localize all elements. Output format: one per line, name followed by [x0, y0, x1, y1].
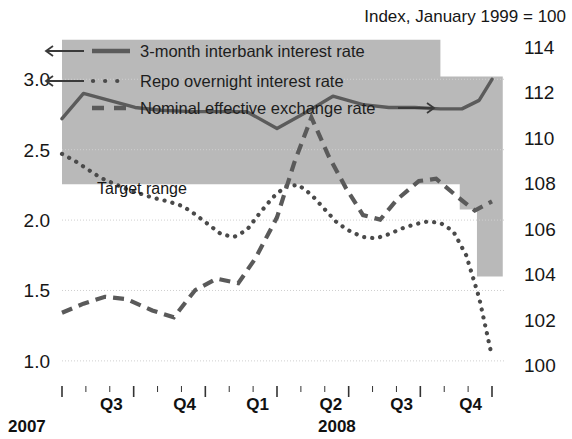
target-range-annotation: Target range — [97, 180, 187, 197]
left-axis-tick-label: 2.5 — [24, 140, 50, 161]
index-note-title: Index, January 1999 = 100 — [364, 7, 566, 26]
left-axis-tick-label: 1.0 — [24, 351, 50, 372]
right-axis-tick-label: 108 — [524, 173, 556, 194]
quarter-label: Q3 — [100, 395, 123, 414]
legend-label: 3-month interbank interest rate — [140, 42, 365, 60]
quarter-label: Q2 — [319, 395, 342, 414]
right-axis-tick-label: 114 — [524, 37, 555, 58]
left-axis-tick-label: 2.0 — [24, 210, 50, 231]
interest-rate-exchange-rate-chart: 3.02.52.01.51.0 114112110108106104102100… — [0, 0, 572, 439]
quarter-label: Q3 — [390, 395, 413, 414]
left-axis-tick-label: 1.5 — [24, 280, 50, 301]
right-axis-tick-label: 112 — [524, 82, 554, 103]
legend-label: Nominal effective exchange rate — [140, 99, 375, 117]
quarter-label: Q4 — [173, 395, 196, 414]
right-axis-tick-label: 100 — [524, 355, 556, 376]
left-axis-tick-label: 3.0 — [24, 69, 50, 90]
chart-container: 3.02.52.01.51.0 114112110108106104102100… — [0, 0, 572, 439]
right-axis-tick-label: 104 — [524, 264, 556, 285]
quarter-label: Q1 — [246, 395, 269, 414]
legend-label: Repo overnight interest rate — [140, 72, 344, 90]
quarter-label: Q4 — [459, 395, 482, 414]
right-axis-tick-label: 110 — [524, 128, 554, 149]
right-axis-tick-label: 106 — [524, 219, 556, 240]
right-axis-tick-label: 102 — [524, 310, 556, 331]
year-label: 2007 — [8, 417, 46, 436]
year-label: 2008 — [318, 417, 356, 436]
